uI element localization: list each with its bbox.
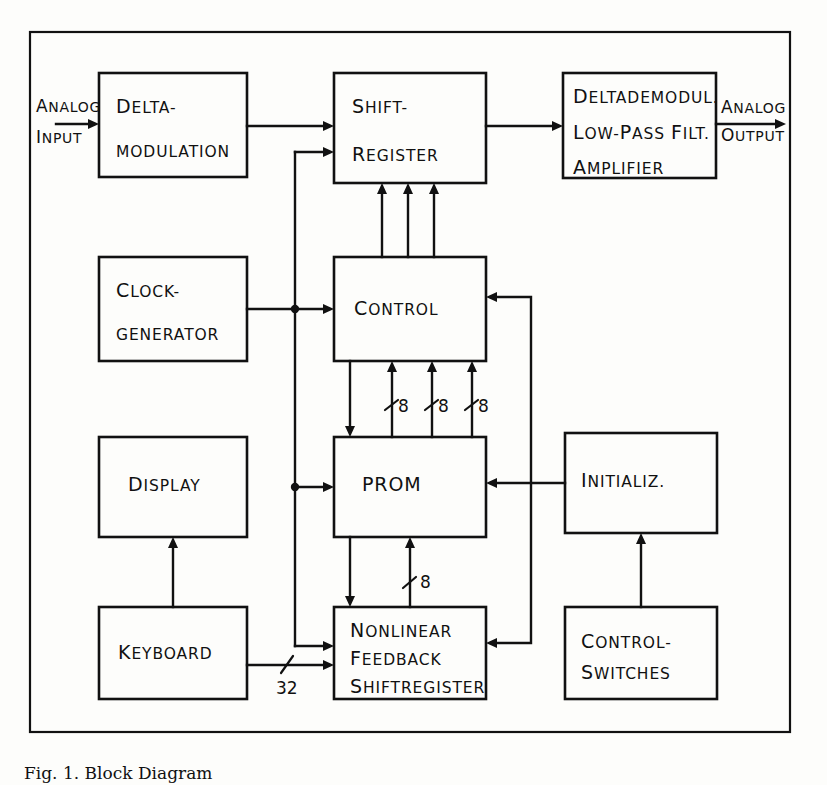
- label-nfsr: NONLINEAR: [350, 619, 452, 641]
- arrow-clock-nfsr: [323, 641, 334, 651]
- arrow-initializ-prom: [486, 478, 497, 488]
- wire-control-nfsr: [494, 297, 531, 643]
- label-control-switches: CONTROL-: [581, 630, 672, 652]
- arrow-clock-shiftreg: [323, 147, 334, 157]
- label-delta-demodulator-3: AMPLIFIER: [573, 156, 664, 178]
- bus-label-prom-control-3: 8: [478, 396, 489, 416]
- arrow-control-nfsr: [486, 638, 497, 648]
- arrow-prom-nfsr-down: [345, 596, 355, 607]
- arrow-control-shiftreg-1: [377, 183, 387, 194]
- label-delta-demodulator: DELTADEMODUL.: [573, 85, 719, 107]
- label-nfsr-2: FEEDBACK: [350, 647, 442, 669]
- arrow-analog-input: [88, 119, 99, 129]
- arrow-nfsr-prom-up: [405, 537, 415, 548]
- bus-label-prom-control-2: 8: [438, 396, 449, 416]
- arrow-deltamod-shiftreg: [323, 121, 334, 131]
- arrow-control-prom-down: [345, 426, 355, 437]
- arrow-control-shiftreg-3: [429, 183, 439, 194]
- bus-label-prom-control-1: 8: [398, 396, 409, 416]
- label-prom: PROM: [362, 473, 422, 495]
- arrow-shiftreg-demod: [552, 121, 563, 131]
- arrow-prom-control-3: [467, 361, 477, 372]
- arrow-switches-initializ: [636, 533, 646, 544]
- label-delta-demodulator-2: LOW-PASS FILT.: [573, 121, 710, 143]
- figure-caption: Fig. 1. Block Diagram: [24, 762, 524, 785]
- block-diagram: DELTA- MODULATION SHIFT- REGISTER DELTAD…: [0, 0, 827, 785]
- junction-clock-prom: [291, 483, 299, 491]
- label-shift-register: SHIFT-: [352, 95, 408, 117]
- arrow-prom-control-2: [427, 361, 437, 372]
- arrow-control-shiftreg-2: [403, 183, 413, 194]
- bus-label-nfsr-prom: 8: [420, 572, 431, 592]
- block-clock-generator[interactable]: [99, 257, 247, 361]
- junction-clock-trunk: [291, 305, 299, 313]
- block-control-switches[interactable]: [565, 607, 717, 699]
- bus-label-keyboard-nfsr: 32: [276, 678, 298, 698]
- label-clock-generator-2: GENERATOR: [116, 326, 219, 344]
- label-initializ: INITIALIZ.: [581, 469, 665, 491]
- arrow-keyboard-nfsr: [323, 660, 334, 670]
- label-delta-modulation-2: MODULATION: [116, 143, 230, 161]
- label-shift-register-2: REGISTER: [352, 143, 439, 165]
- arrow-keyboard-display: [168, 537, 178, 548]
- arrow-prom-control-1: [387, 361, 397, 372]
- label-control-switches-2: SWITCHES: [581, 661, 671, 683]
- label-display: DISPLAY: [128, 473, 201, 495]
- figure-caption-text: Fig. 1. Block Diagram: [24, 762, 524, 785]
- label-clock-generator: CLOCK-: [116, 279, 180, 301]
- figure-page: DELTA- MODULATION SHIFT- REGISTER DELTAD…: [0, 0, 827, 785]
- label-analog-input-1: ANALOG: [36, 96, 101, 116]
- label-nfsr-3: SHIFTREGISTER: [350, 675, 485, 697]
- label-delta-modulation: DELTA-: [116, 95, 176, 117]
- arrow-clock-control: [323, 304, 334, 314]
- label-analog-input-2: INPUT: [36, 127, 82, 147]
- label-keyboard: KEYBOARD: [118, 641, 213, 663]
- block-shift-register[interactable]: [334, 73, 486, 183]
- block-delta-modulation[interactable]: [99, 73, 247, 177]
- arrow-control-right-in: [486, 292, 497, 302]
- arrow-clock-prom: [323, 482, 334, 492]
- label-control: CONTROL: [354, 297, 438, 319]
- label-analog-output-1: ANALOG: [721, 97, 786, 117]
